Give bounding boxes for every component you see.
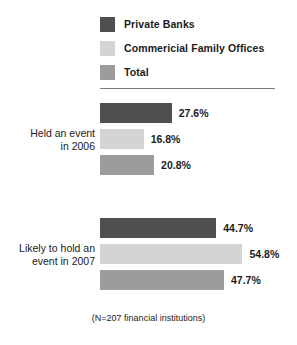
- legend-label-total: Total: [124, 67, 149, 78]
- bar-value-family-offices-2007: 54.8%: [249, 247, 279, 261]
- legend-label-private-banks: Private Banks: [124, 19, 195, 30]
- legend-label-family-offices: Commericial Family Offices: [124, 43, 264, 54]
- legend-swatch-icon-family-offices: [100, 41, 115, 56]
- legend-swatch-icon-private-banks: [100, 17, 115, 32]
- bar-chart: Private Banks Commericial Family Offices…: [0, 0, 297, 345]
- bar-value-total-2006: 20.8%: [161, 158, 191, 172]
- bar-value-private-banks-2006: 27.6%: [179, 106, 209, 120]
- bar-total-2007: [100, 270, 224, 290]
- chart-footnote: (N=207 financial institutions): [0, 313, 297, 323]
- bar-family-offices-2007: [100, 244, 242, 264]
- chart-legend: Private Banks Commericial Family Offices…: [100, 12, 264, 84]
- bar-private-banks-2007: [100, 218, 216, 238]
- bar-private-banks-2006: [100, 103, 172, 123]
- bar-value-total-2007: 47.7%: [231, 273, 261, 287]
- category-label-likely-hold-2007: Likely to hold an event in 2007: [0, 242, 95, 268]
- legend-divider: [100, 88, 275, 89]
- legend-item-total: Total: [100, 60, 264, 84]
- category-label-held-event-2006: Held an event in 2006: [0, 127, 95, 153]
- bar-value-family-offices-2006: 16.8%: [151, 132, 181, 146]
- legend-swatch-icon-total: [100, 65, 115, 80]
- bar-value-private-banks-2007: 44.7%: [223, 221, 253, 235]
- legend-item-private-banks: Private Banks: [100, 12, 264, 36]
- bar-family-offices-2006: [100, 129, 144, 149]
- bar-total-2006: [100, 155, 154, 175]
- legend-item-family-offices: Commericial Family Offices: [100, 36, 264, 60]
